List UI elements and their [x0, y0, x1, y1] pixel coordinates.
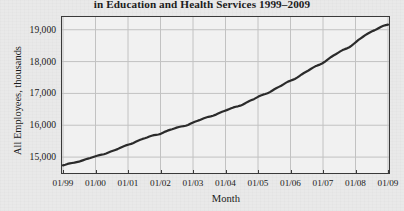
x-tick-mark: [193, 170, 194, 174]
x-tick-mark: [258, 170, 259, 174]
x-tick-mark: [356, 170, 357, 174]
x-axis-label: Month: [61, 193, 391, 204]
x-tick-mark: [63, 170, 64, 174]
x-tick-mark: [291, 170, 292, 174]
x-tick-mark: [161, 170, 162, 174]
x-tick-mark: [96, 170, 97, 174]
x-tick-label: 01/09: [368, 178, 404, 188]
x-tick-mark: [388, 170, 389, 174]
x-tick-mark: [128, 170, 129, 174]
x-axis-ticks: 01/9901/0001/0101/0201/0301/0401/0501/06…: [0, 0, 404, 211]
x-tick-mark: [323, 170, 324, 174]
x-tick-mark: [226, 170, 227, 174]
